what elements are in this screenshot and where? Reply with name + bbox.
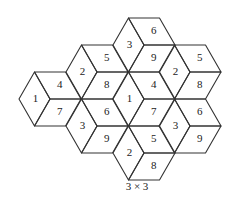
rhombus-label: 8 — [197, 78, 203, 90]
rhombus-label: 9 — [104, 132, 110, 144]
hexagon-upper-right: 258 — [159, 45, 221, 99]
rhombus-label: 6 — [104, 105, 110, 117]
rhombus-label: 8 — [104, 78, 110, 90]
rhombus-label: 3 — [173, 119, 179, 131]
rhombus-label: 9 — [151, 51, 157, 63]
hexagon-clusters: 147258369258147369369258 — [19, 18, 221, 180]
hexagon-lower-right: 369 — [159, 99, 221, 153]
rhombus-label: 8 — [151, 159, 157, 171]
rhombus-label: 1 — [33, 92, 39, 104]
rhombus-tiling-diagram: 147258369258147369369258 3 × 3 — [0, 0, 237, 201]
rhombus-label: 5 — [151, 132, 157, 144]
hexagon-bottom: 258 — [113, 126, 175, 180]
diagram-caption: 3 × 3 — [126, 180, 149, 192]
rhombus-label: 4 — [57, 78, 63, 90]
hexagon-left: 147 — [19, 72, 81, 126]
rhombus-label: 6 — [197, 105, 203, 117]
rhombus-label: 2 — [173, 65, 179, 77]
rhombus-label: 5 — [104, 51, 110, 63]
rhombus-label: 7 — [151, 105, 157, 117]
rhombus-label: 2 — [80, 65, 86, 77]
hexagon-upper-left: 258 — [66, 45, 128, 99]
rhombus-label: 6 — [151, 24, 157, 36]
rhombus-label: 9 — [197, 132, 203, 144]
rhombus-label: 3 — [127, 38, 133, 50]
rhombus-label: 1 — [127, 92, 133, 104]
rhombus-label: 4 — [151, 78, 157, 90]
hexagon-lower-left: 369 — [66, 99, 128, 153]
rhombus-label: 3 — [80, 119, 86, 131]
rhombus-label: 5 — [197, 51, 203, 63]
hexagon-center: 147 — [113, 72, 175, 126]
rhombus-label: 7 — [57, 105, 63, 117]
rhombus-label: 2 — [127, 146, 133, 158]
hexagon-top: 369 — [113, 18, 175, 72]
